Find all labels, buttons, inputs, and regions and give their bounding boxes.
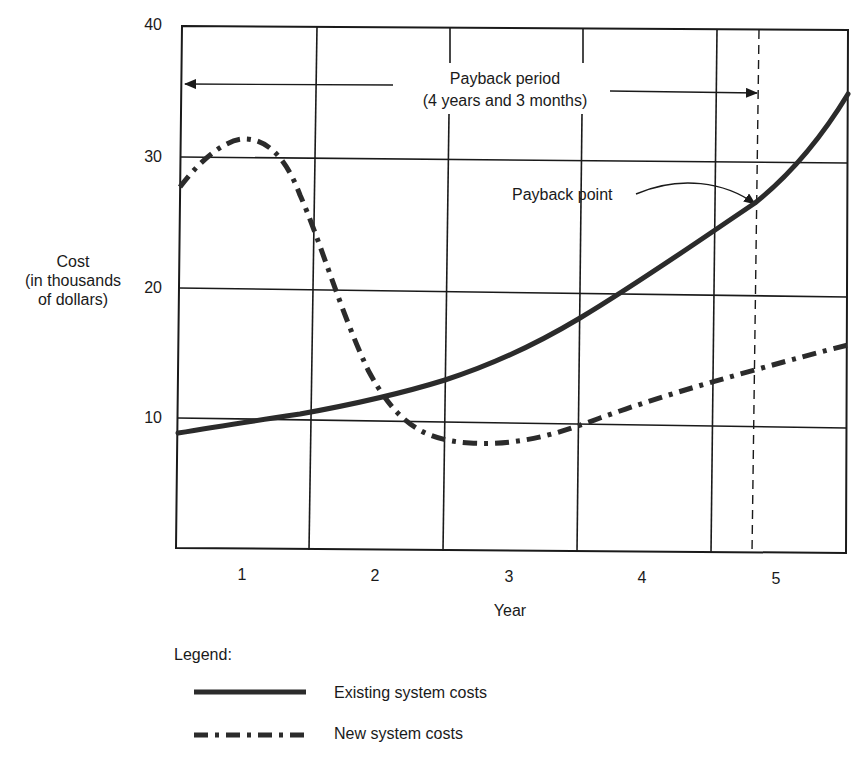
series-existing-system-costs bbox=[178, 94, 848, 433]
y-axis-label: Cost (in thousands of dollars) bbox=[18, 252, 128, 309]
payback-point-arrow bbox=[636, 183, 755, 204]
legend-title: Legend: bbox=[174, 646, 232, 664]
y-tick-10: 10 bbox=[122, 409, 162, 427]
x-tick-3: 3 bbox=[494, 568, 524, 586]
legend-new-label: New system costs bbox=[334, 725, 463, 743]
y-axis-label-line3: of dollars) bbox=[18, 290, 128, 309]
payback-period-sublabel: (4 years and 3 months) bbox=[400, 92, 610, 110]
x-tick-2: 2 bbox=[360, 567, 390, 585]
payback-period-label: Payback period bbox=[400, 70, 610, 88]
x-tick-5: 5 bbox=[761, 570, 791, 588]
x-axis-label: Year bbox=[470, 602, 550, 620]
payback-period-right-arrow bbox=[610, 91, 757, 93]
series-new-system-costs bbox=[180, 139, 848, 443]
payback-point-label: Payback point bbox=[512, 186, 613, 204]
y-axis-label-line1: Cost bbox=[18, 252, 128, 271]
chart-canvas bbox=[0, 0, 868, 758]
y-tick-20: 20 bbox=[122, 279, 162, 297]
y-tick-40: 40 bbox=[122, 16, 162, 34]
x-tick-4: 4 bbox=[627, 569, 657, 587]
payback-dashed-line bbox=[752, 30, 759, 553]
y-tick-30: 30 bbox=[122, 148, 162, 166]
legend-existing-label: Existing system costs bbox=[334, 684, 487, 702]
payback-period-left-arrow bbox=[185, 84, 393, 85]
x-tick-1: 1 bbox=[227, 566, 257, 584]
y-axis-label-line2: (in thousands bbox=[18, 271, 128, 290]
